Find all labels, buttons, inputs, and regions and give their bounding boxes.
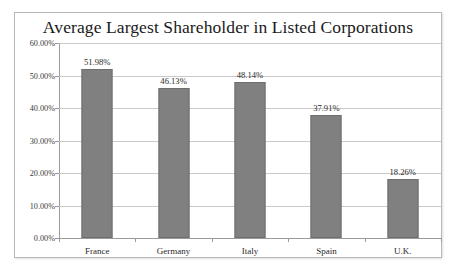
y-axis-tick-label: 40.00%	[30, 104, 55, 113]
bar-value-label: 18.26%	[390, 167, 417, 177]
bar-slot: 48.14%	[212, 43, 288, 238]
bar	[234, 82, 265, 238]
plot-area: 51.98%46.13%48.14%37.91%18.26% FranceGer…	[59, 43, 441, 238]
bar-value-label: 46.13%	[160, 76, 187, 86]
y-axis-tick-label: 10.00%	[30, 201, 55, 210]
bar	[387, 179, 418, 238]
bar-slot: 51.98%	[59, 43, 135, 238]
x-axis-tick-mark	[135, 238, 136, 242]
x-axis-category-label: Spain	[316, 246, 337, 256]
gridline	[59, 238, 441, 239]
bar-slot: 18.26%	[365, 43, 441, 238]
y-axis-tick-label: 50.00%	[30, 71, 55, 80]
chart-title: Average Largest Shareholder in Listed Co…	[15, 17, 441, 38]
x-axis-tick-mark	[365, 238, 366, 242]
bar-value-label: 51.98%	[84, 57, 111, 67]
x-axis-tick-mark	[59, 238, 60, 242]
x-axis-category-label: U.K.	[394, 246, 412, 256]
x-axis-category-label: Germany	[157, 246, 191, 256]
chart-container: Average Largest Shareholder in Listed Co…	[14, 12, 442, 258]
bar-value-label: 48.14%	[237, 70, 264, 80]
bar	[82, 69, 113, 238]
y-axis-tick-label: 0.00%	[34, 234, 55, 243]
x-axis-tick-mark	[288, 238, 289, 242]
bar	[311, 115, 342, 238]
y-axis-tick-label: 30.00%	[30, 136, 55, 145]
x-axis-category-label: France	[85, 246, 110, 256]
bar-slot: 46.13%	[135, 43, 211, 238]
x-axis-tick-mark	[441, 238, 442, 242]
y-axis-tick-label: 20.00%	[30, 169, 55, 178]
bar	[158, 88, 189, 238]
bar-value-label: 37.91%	[313, 103, 340, 113]
y-axis-tick-label: 60.00%	[30, 39, 55, 48]
x-axis-category-label: Italy	[242, 246, 259, 256]
bar-slot: 37.91%	[288, 43, 364, 238]
x-axis-tick-mark	[212, 238, 213, 242]
